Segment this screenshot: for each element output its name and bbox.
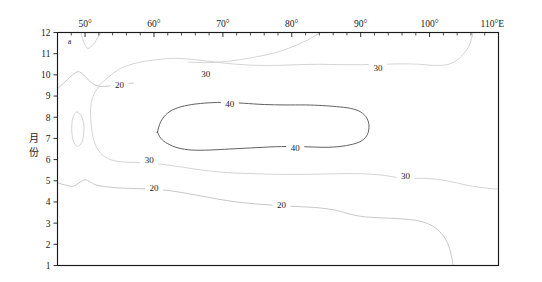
contour-line-20 (81, 33, 101, 49)
contour-lines-group (58, 33, 499, 266)
annotations-group: a203030404030302020 (68, 37, 411, 210)
contour-line-40 (157, 102, 369, 150)
y-axis-tick-label: 2 (46, 240, 51, 250)
contour-value-label: 30 (401, 171, 411, 181)
contour-figure: 50°60°70°80°90°100°110°E123456789101112月… (0, 0, 542, 282)
contour-value-label: 40 (291, 143, 301, 153)
contour-value-label: 30 (373, 63, 383, 73)
contour-plot-svg: 50°60°70°80°90°100°110°E123456789101112月… (0, 0, 542, 282)
contour-value-label: 30 (145, 155, 155, 165)
x-axis-tick-label: 90° (354, 19, 368, 29)
contour-line-30 (188, 33, 320, 63)
contour-line-20 (58, 180, 454, 266)
x-axis-tick-label: 100° (421, 19, 439, 29)
contour-line-20 (72, 112, 84, 147)
x-axis-tick-label: 80° (285, 19, 299, 29)
y-axis-tick-label: 8 (46, 113, 51, 123)
contour-line-30 (91, 87, 499, 190)
x-axis-tick-label: 110°E (481, 19, 505, 29)
contour-value-label: 30 (201, 69, 211, 79)
y-axis-title-char: 月 (29, 133, 39, 144)
contour-line-30 (99, 33, 473, 86)
contour-value-label: 20 (115, 80, 125, 90)
x-axis-tick-label: 50° (78, 19, 92, 29)
y-axis-tick-label: 7 (46, 134, 51, 144)
y-axis-title-char: 份 (29, 147, 39, 158)
y-axis-tick-label: 9 (46, 91, 51, 101)
y-axis-tick-label: 12 (41, 28, 51, 38)
y-axis-tick-label: 6 (46, 155, 51, 165)
y-axis-tick-label: 10 (41, 70, 51, 80)
y-axis-tick-label: 1 (46, 261, 51, 271)
y-axis-title-group: 月份 (29, 133, 39, 158)
contour-value-label: 20 (149, 183, 159, 193)
y-axis-tick-label: 4 (46, 197, 51, 207)
y-axis-tick-label: 5 (46, 176, 51, 186)
contour-value-label: 20 (277, 200, 287, 210)
x-axis-tick-label: 70° (216, 19, 230, 29)
y-axis-tick-label: 3 (46, 219, 51, 229)
panel-label: a (68, 37, 72, 46)
contour-value-label: 40 (225, 99, 235, 109)
y-axis-tick-label: 11 (41, 49, 50, 59)
x-axis-tick-label: 60° (147, 19, 161, 29)
x-axis-group: 50°60°70°80°90°100°110°E (58, 19, 505, 38)
y-axis-group: 123456789101112 (41, 28, 58, 271)
